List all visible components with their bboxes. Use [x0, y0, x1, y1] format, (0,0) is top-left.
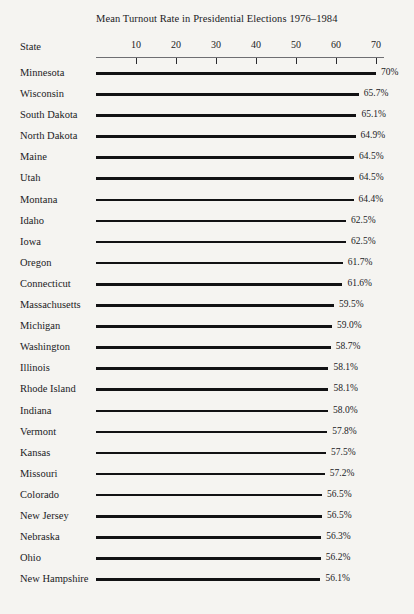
chart-title: Mean Turnout Rate in Presidential Electi… — [96, 13, 338, 24]
chart-row: Colorado56.5% — [0, 488, 414, 509]
axis-tick-label: 30 — [211, 39, 221, 50]
row-bar — [96, 578, 320, 581]
axis-tick-label: 60 — [331, 39, 341, 50]
row-value-label: 64.5% — [359, 150, 384, 163]
row-bar — [96, 283, 342, 286]
chart-row: Maine64.5% — [0, 150, 414, 171]
chart-row: Montana64.4% — [0, 193, 414, 214]
row-state-label: Washington — [20, 340, 70, 353]
row-state-label: New Jersey — [20, 509, 69, 522]
row-value-label: 65.7% — [364, 87, 389, 100]
row-bar — [96, 494, 322, 497]
row-state-label: Missouri — [20, 467, 57, 480]
row-state-label: Colorado — [20, 488, 59, 501]
axis-tick — [176, 58, 177, 64]
chart-row: Rhode Island58.1% — [0, 382, 414, 403]
chart-row: Michigan59.0% — [0, 319, 414, 340]
row-bar — [96, 452, 326, 455]
chart-row: Iowa62.5% — [0, 235, 414, 256]
row-state-label: Massachusetts — [20, 298, 81, 311]
row-state-label: New Hampshire — [20, 572, 89, 585]
row-value-label: 64.5% — [359, 171, 384, 184]
chart-row: Missouri57.2% — [0, 467, 414, 488]
row-bar — [96, 114, 356, 117]
axis-line — [96, 57, 384, 58]
row-value-label: 65.1% — [361, 108, 386, 121]
row-value-label: 59.5% — [339, 298, 364, 311]
chart-row: Washington58.7% — [0, 340, 414, 361]
axis-tick — [256, 58, 257, 64]
chart-row: North Dakota64.9% — [0, 129, 414, 150]
chart-row: South Dakota65.1% — [0, 108, 414, 129]
row-bar — [96, 346, 331, 349]
row-state-label: Illinois — [20, 361, 50, 374]
row-bar — [96, 367, 328, 370]
row-state-label: Nebraska — [20, 530, 60, 543]
row-value-label: 64.9% — [361, 129, 386, 142]
row-bar — [96, 304, 334, 307]
chart-x-axis: 10203040506070 — [0, 36, 414, 60]
axis-tick-label: 40 — [251, 39, 261, 50]
row-state-label: North Dakota — [20, 129, 77, 142]
row-state-label: Minnesota — [20, 66, 64, 79]
row-bar — [96, 135, 356, 138]
axis-tick — [336, 58, 337, 64]
axis-tick-label: 50 — [291, 39, 301, 50]
chart-row: Vermont57.8% — [0, 425, 414, 446]
axis-tick — [136, 58, 137, 64]
axis-tick-label: 70 — [371, 39, 381, 50]
axis-tick-label: 10 — [131, 39, 141, 50]
row-bar — [96, 241, 346, 244]
chart-row: Nebraska56.3% — [0, 530, 414, 551]
chart-row: Minnesota70% — [0, 66, 414, 87]
row-value-label: 58.1% — [333, 382, 358, 395]
turnout-dot-plot-chart: Mean Turnout Rate in Presidential Electi… — [0, 0, 414, 614]
row-state-label: Oregon — [20, 256, 52, 269]
row-bar — [96, 325, 332, 328]
chart-row: Illinois58.1% — [0, 361, 414, 382]
row-value-label: 61.6% — [347, 277, 372, 290]
row-value-label: 56.5% — [327, 509, 352, 522]
column-header-state: State — [20, 41, 41, 52]
chart-row: Indiana58.0% — [0, 404, 414, 425]
chart-row: Idaho62.5% — [0, 214, 414, 235]
axis-tick — [296, 58, 297, 64]
row-value-label: 64.4% — [359, 193, 384, 206]
chart-row: Oregon61.7% — [0, 256, 414, 277]
chart-row: Connecticut61.6% — [0, 277, 414, 298]
row-state-label: Ohio — [20, 551, 41, 564]
row-state-label: Idaho — [20, 214, 44, 227]
row-state-label: South Dakota — [20, 108, 77, 121]
row-bar — [96, 410, 328, 413]
chart-row: Utah64.5% — [0, 171, 414, 192]
row-bar — [96, 262, 343, 265]
row-bar — [96, 93, 359, 96]
row-state-label: Vermont — [20, 425, 56, 438]
row-value-label: 57.5% — [331, 446, 356, 459]
chart-row: New Hampshire56.1% — [0, 572, 414, 593]
row-value-label: 58.1% — [333, 361, 358, 374]
chart-rows: Minnesota70%Wisconsin65.7%South Dakota65… — [0, 66, 414, 593]
row-value-label: 56.2% — [326, 551, 351, 564]
row-bar — [96, 515, 322, 518]
row-state-label: Rhode Island — [20, 382, 76, 395]
row-bar — [96, 431, 327, 434]
row-value-label: 57.2% — [330, 467, 355, 480]
axis-tick — [376, 58, 377, 64]
chart-row: Massachusetts59.5% — [0, 298, 414, 319]
row-bar — [96, 220, 346, 223]
row-value-label: 62.5% — [351, 235, 376, 248]
row-value-label: 56.1% — [325, 572, 350, 585]
row-bar — [96, 388, 328, 391]
row-bar — [96, 177, 354, 180]
axis-tick — [216, 58, 217, 64]
chart-row: Ohio56.2% — [0, 551, 414, 572]
chart-row: Kansas57.5% — [0, 446, 414, 467]
axis-tick-label: 20 — [171, 39, 181, 50]
chart-row: Wisconsin65.7% — [0, 87, 414, 108]
row-value-label: 62.5% — [351, 214, 376, 227]
row-value-label: 58.0% — [333, 404, 358, 417]
row-state-label: Utah — [20, 171, 40, 184]
row-value-label: 56.5% — [327, 488, 352, 501]
row-value-label: 57.8% — [332, 425, 357, 438]
